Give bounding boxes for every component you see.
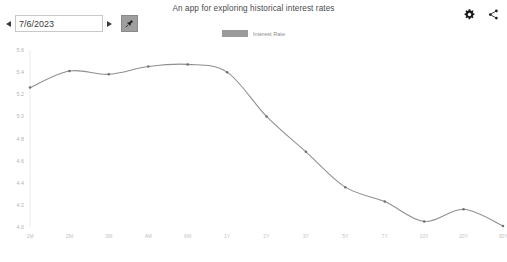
y-tick-label: 4.2 — [17, 202, 25, 208]
data-point-marker[interactable] — [186, 63, 189, 66]
x-tick-label: 10Y — [420, 233, 430, 239]
x-tick-label: 30Y — [498, 233, 507, 239]
y-tick-label: 5.4 — [17, 69, 25, 75]
y-tick-label: 4.0 — [17, 224, 25, 230]
y-axis: 4.04.24.44.64.85.05.25.45.6 — [17, 47, 31, 230]
x-tick-label: 20Y — [459, 233, 469, 239]
y-tick-label: 5.2 — [17, 91, 25, 97]
x-tick-label: 4M — [145, 233, 152, 239]
data-point-marker[interactable] — [29, 86, 32, 89]
data-point-marker[interactable] — [305, 151, 308, 154]
data-point-marker[interactable] — [423, 220, 426, 223]
legend-swatch-interest-rate — [222, 30, 248, 37]
chart-plot-area: 4.04.24.44.64.85.05.25.45.6 1M2M3M4M6M1Y… — [0, 42, 507, 262]
y-tick-label: 5.0 — [17, 113, 25, 119]
x-tick-label: 3Y — [303, 233, 310, 239]
data-point-marker[interactable] — [68, 70, 71, 73]
line-chart: 4.04.24.44.64.85.05.25.45.6 1M2M3M4M6M1Y… — [0, 42, 507, 262]
data-point-marker[interactable] — [384, 200, 387, 203]
chart-legend: Interest Rate — [0, 30, 507, 37]
x-tick-label: 6M — [184, 233, 191, 239]
x-axis: 1M2M3M4M6M1Y2Y3Y5Y7Y10Y20Y30Y — [26, 233, 507, 239]
chevron-left-icon — [6, 21, 11, 27]
pin-icon — [125, 19, 134, 28]
x-tick-label: 1Y — [224, 233, 231, 239]
page-title: An app for exploring historical interest… — [0, 4, 507, 13]
y-tick-label: 4.6 — [17, 158, 25, 164]
data-point-marker[interactable] — [108, 73, 111, 76]
x-tick-label: 2M — [66, 233, 73, 239]
series-line-interest-rate — [30, 64, 503, 226]
y-tick-label: 4.8 — [17, 136, 25, 142]
legend-label-interest-rate: Interest Rate — [253, 31, 285, 37]
action-icon-group — [464, 9, 499, 20]
data-point-marker[interactable] — [147, 65, 150, 68]
chevron-right-icon — [107, 21, 112, 27]
data-point-marker[interactable] — [226, 71, 229, 74]
x-tick-label: 1M — [26, 233, 33, 239]
data-point-marker[interactable] — [462, 208, 465, 211]
data-point-marker[interactable] — [502, 225, 505, 228]
y-tick-label: 5.6 — [17, 47, 25, 53]
data-point-marker[interactable] — [265, 115, 268, 118]
data-point-marker[interactable] — [344, 186, 347, 189]
x-tick-label: 2Y — [263, 233, 270, 239]
gear-icon[interactable] — [464, 9, 475, 20]
series-interest-rate — [29, 63, 505, 227]
share-icon[interactable] — [488, 9, 499, 20]
x-tick-label: 7Y — [382, 233, 389, 239]
x-tick-label: 5Y — [342, 233, 349, 239]
x-tick-label: 3M — [105, 233, 112, 239]
y-tick-label: 4.4 — [17, 180, 25, 186]
